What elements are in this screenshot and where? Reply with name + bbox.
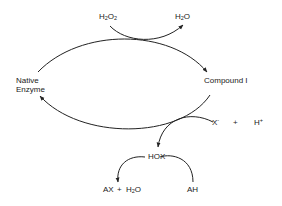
label-h2o2: H2O2 xyxy=(99,12,117,21)
label-plus-2: + xyxy=(117,185,122,194)
label-hox: HOX xyxy=(148,152,165,161)
arc-x-to-hox xyxy=(158,117,213,147)
label-ax: AX xyxy=(103,185,114,194)
reaction-diagram-lines xyxy=(0,0,282,206)
label-ah: AH xyxy=(187,185,198,194)
label-compound-i: Compound I xyxy=(204,76,248,85)
arc-h2o2-to-h2o xyxy=(110,25,183,39)
label-h2o-top: H2O xyxy=(175,12,190,21)
arc-compound-to-native xyxy=(40,95,210,129)
label-native-enzyme: NativeEnzyme xyxy=(16,76,45,94)
label-plus-1: + xyxy=(233,118,238,127)
label-x-minus: X- xyxy=(212,118,219,127)
arc-native-to-compound xyxy=(38,39,207,72)
label-h-plus: H+ xyxy=(254,118,263,127)
label-h2o-bottom: H2O xyxy=(126,185,141,194)
